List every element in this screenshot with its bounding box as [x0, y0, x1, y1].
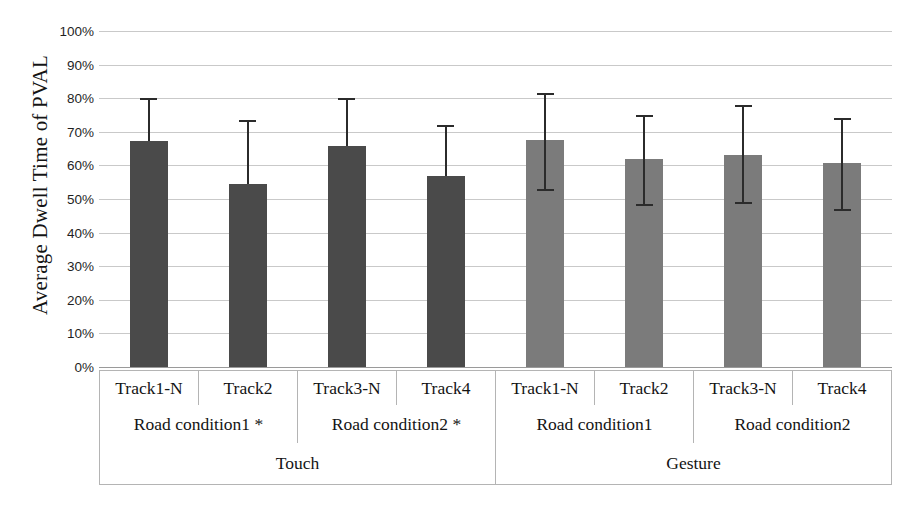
gridline: [99, 367, 892, 368]
error-bar-cap-upper: [239, 120, 256, 122]
y-tick-label: 90%: [52, 57, 94, 72]
error-bar-line: [742, 105, 744, 202]
interaction-mode-label-row: TouchGesture: [100, 443, 891, 484]
error-bar-line: [247, 120, 249, 184]
bar-slot: [595, 31, 694, 367]
bar[interactable]: [328, 146, 366, 367]
track-label: Track2: [594, 371, 693, 405]
error-bar-cap-upper: [537, 93, 554, 95]
y-tick-label: 10%: [52, 326, 94, 341]
road-condition-label: Road condition1 *: [100, 405, 297, 443]
error-bar-cap-lower: [834, 209, 851, 211]
bar-slot: [297, 31, 396, 367]
road-condition-label: Road condition2 *: [297, 405, 495, 443]
error-bar-cap-upper: [140, 98, 157, 100]
error-bar-line: [445, 125, 447, 176]
y-tick-label: 0%: [52, 360, 94, 375]
y-tick-label: 70%: [52, 124, 94, 139]
bar-slot: [99, 31, 198, 367]
bar[interactable]: [130, 141, 168, 367]
bar[interactable]: [427, 176, 465, 367]
y-tick-label: 80%: [52, 91, 94, 106]
interaction-mode-label: Touch: [100, 443, 495, 484]
error-bar-cap-upper: [636, 115, 653, 117]
track-label: Track3-N: [297, 371, 396, 405]
error-bar-cap-lower: [735, 202, 752, 204]
y-tick-label: 50%: [52, 192, 94, 207]
track-label: Track4: [396, 371, 495, 405]
bar-chart-figure: Average Dwell Time of PVAL 100%90%80%70%…: [0, 0, 911, 512]
error-bar-line: [148, 98, 150, 141]
track-label: Track1-N: [495, 371, 594, 405]
error-bar-line: [544, 93, 546, 189]
y-tick-label: 60%: [52, 158, 94, 173]
bar-slot: [793, 31, 892, 367]
error-bar-line: [346, 98, 348, 146]
y-tick-label: 20%: [52, 292, 94, 307]
bar-slot: [396, 31, 495, 367]
track-label: Track3-N: [693, 371, 792, 405]
y-tick-label: 30%: [52, 259, 94, 274]
error-bar-cap-lower: [636, 204, 653, 206]
x-axis-label-table: Track1-NTrack2Track3-NTrack4Track1-NTrac…: [99, 370, 892, 485]
error-bar-cap-upper: [834, 118, 851, 120]
road-condition-label-row: Road condition1 *Road condition2 *Road c…: [100, 405, 891, 443]
track-label: Track4: [792, 371, 891, 405]
error-bar-cap-upper: [437, 125, 454, 127]
bar-slot: [198, 31, 297, 367]
track-label: Track1-N: [100, 371, 198, 405]
error-bar-line: [643, 115, 645, 204]
error-bar-cap-upper: [735, 105, 752, 107]
bar-slot: [694, 31, 793, 367]
y-tick-label: 40%: [52, 225, 94, 240]
bar[interactable]: [229, 184, 267, 367]
road-condition-label: Road condition1: [495, 405, 693, 443]
error-bar-line: [841, 118, 843, 209]
track-label-row: Track1-NTrack2Track3-NTrack4Track1-NTrac…: [100, 371, 891, 405]
road-condition-label: Road condition2: [693, 405, 891, 443]
track-label: Track2: [198, 371, 297, 405]
error-bar-cap-lower: [537, 189, 554, 191]
y-axis-tick-labels: 100%90%80%70%60%50%40%30%20%10%0%: [52, 31, 94, 367]
error-bar-cap-upper: [338, 98, 355, 100]
bar-slot: [496, 31, 595, 367]
plot-area: [99, 31, 892, 367]
y-tick-label: 100%: [52, 24, 94, 39]
interaction-mode-label: Gesture: [495, 443, 891, 484]
